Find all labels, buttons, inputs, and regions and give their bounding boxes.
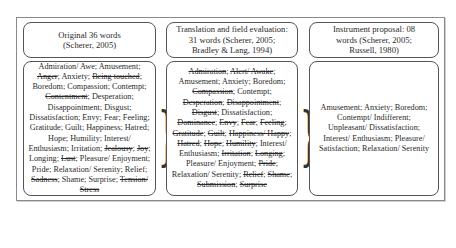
removed-word: Longing: [255, 149, 283, 158]
word: Envy: [82, 113, 99, 122]
word: Happiness: [86, 123, 120, 132]
word: Amusement: [321, 103, 361, 112]
header-line: (Scherer, 2005): [58, 40, 121, 50]
removed-word: Feeling: [260, 118, 285, 127]
column-translation-header: Translation and field evaluation: 31 wor…: [166, 22, 298, 58]
word: Fear: [104, 113, 119, 122]
word: Boredom: [32, 82, 62, 91]
removed-word: Hope: [204, 139, 222, 148]
column-translation-words: Admiration; Alert/ Awake; Amusement; Anx…: [166, 61, 298, 196]
word: Boredom: [253, 77, 283, 86]
word-list: Admiration/ Awe; Amusement; Anger; Anxie…: [28, 62, 151, 196]
removed-word: Envy: [219, 118, 236, 127]
removed-word: Compassion: [192, 87, 233, 96]
removed-word: Hatred: [177, 139, 199, 148]
word: Pleasure/ Enjoyment: [186, 159, 254, 168]
word: Feeling: [123, 113, 148, 122]
word: Contempt/ Indifferent: [337, 113, 408, 122]
word: Disgust: [104, 103, 129, 112]
word: Desperation: [92, 92, 132, 101]
removed-word: Pride: [258, 159, 275, 168]
removed-word: Contentment: [45, 92, 87, 101]
word: Hatred: [125, 123, 147, 132]
word: Dissatisfaction: [29, 113, 78, 122]
removed-word: Humility: [226, 139, 256, 148]
word: Compassion: [67, 82, 108, 91]
word: Gratitude: [30, 123, 61, 132]
word: Relaxation/ Serenity: [53, 165, 120, 174]
word: Relaxation/ Serenity: [172, 170, 239, 179]
removed-word: Anger: [37, 72, 57, 81]
word: Humility: [70, 134, 100, 143]
word: Boredom: [395, 103, 425, 112]
word: Surprise: [88, 175, 115, 184]
word: Anxiety: [222, 77, 248, 86]
header-line: Russell, 1980): [333, 45, 415, 55]
word: Interest/ Enthusiasm: [323, 134, 390, 143]
word: Anxiety: [364, 103, 390, 112]
removed-word: Alert/ Awake: [230, 67, 273, 76]
column-proposal-words: Amusement; Anxiety; Boredom; Contempt/ I…: [309, 61, 439, 196]
word: Longing: [29, 154, 57, 163]
word: Pride: [32, 165, 49, 174]
header-line: Instrument proposal: 08: [333, 24, 415, 34]
header-line: words (Scherer, 2005;: [333, 35, 415, 45]
word: Shame: [62, 175, 84, 184]
word: Guilt: [65, 123, 82, 132]
word: Contempt: [112, 82, 144, 91]
word-list: Admiration; Alert/ Awake; Amusement; Anx…: [171, 67, 293, 191]
word: Dissatisfaction: [221, 108, 270, 117]
column-original-words: Admiration/ Awe; Amusement; Anger; Anxie…: [23, 61, 156, 196]
removed-word: Desperation: [183, 98, 223, 107]
column-original-header: Original 36 words (Scherer, 2005): [23, 22, 156, 58]
word: Disappointment: [48, 103, 100, 112]
removed-word: Sadness: [31, 175, 57, 184]
removed-word: Relief: [243, 170, 263, 179]
header-line: 31 words (Scherer, 2005;: [176, 35, 288, 45]
removed-word: Shame: [268, 170, 290, 179]
word: Irritation: [71, 144, 100, 153]
header-line: Original 36 words: [58, 30, 121, 40]
column-proposal-header: Instrument proposal: 08 words (Scherer, …: [309, 22, 439, 58]
removed-word: Lust: [61, 154, 76, 163]
word: Relief: [125, 165, 145, 174]
removed-word: Disgust: [192, 108, 217, 117]
word: Amusement: [179, 77, 219, 86]
word: Pleasure/ Enjoyment: [80, 154, 148, 163]
removed-word: Gratitude: [173, 129, 204, 138]
removed-word: Jealousy: [104, 144, 132, 153]
removed-word: Submission: [197, 180, 235, 189]
word: Unpleasant/ Dissatisfaction: [328, 123, 418, 132]
word: Admiration/ Awe: [38, 62, 94, 71]
word: Relaxation/ Serenity: [362, 144, 429, 153]
word: Hope: [48, 134, 66, 143]
removed-word: Fear: [241, 118, 256, 127]
word-list: Amusement; Anxiety; Boredom; Contempt/ I…: [318, 103, 430, 154]
header-line: Bradley & Lang, 1994): [176, 45, 288, 55]
word: Anxiety: [61, 72, 87, 81]
word: Contempt: [237, 87, 269, 96]
header-line: Translation and field evaluation:: [176, 24, 288, 34]
removed-word: Irritation: [222, 149, 251, 158]
word: Amusement: [99, 62, 139, 71]
removed-word: Happiness/ Happy: [229, 129, 289, 138]
removed-word: Disappointment: [227, 98, 279, 107]
removed-word: Guilt: [208, 129, 225, 138]
removed-word: Being touched: [92, 72, 140, 81]
removed-word: Joy: [137, 144, 148, 153]
removed-word: Dominance: [177, 118, 215, 127]
removed-word: Admiration: [188, 67, 226, 76]
removed-word: Surprise: [240, 180, 267, 189]
